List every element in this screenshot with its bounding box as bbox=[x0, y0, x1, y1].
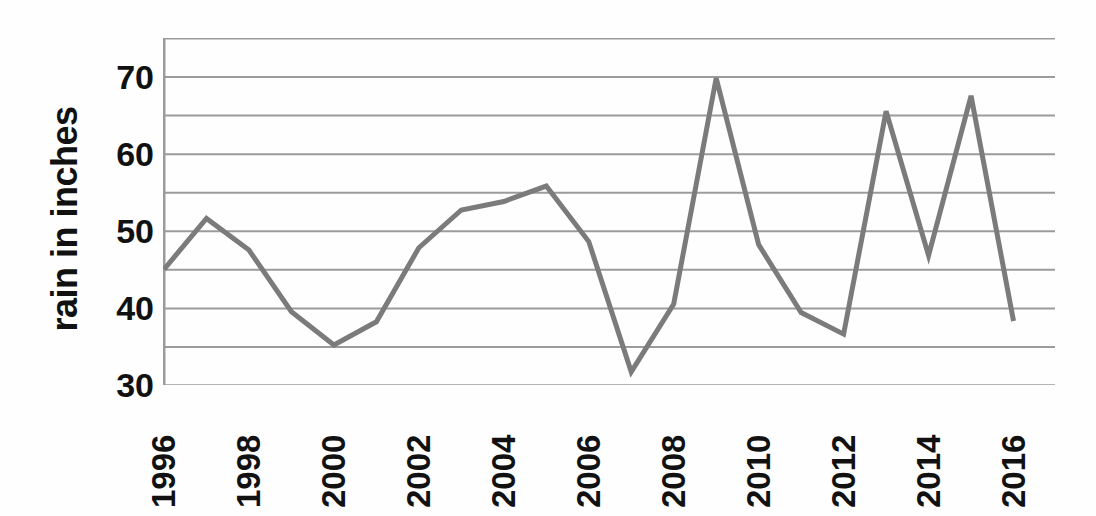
x-tick-label: 2000 bbox=[317, 388, 350, 508]
x-tick-label: 2002 bbox=[402, 388, 435, 508]
gridlines bbox=[163, 39, 1055, 386]
x-tick-label: 2006 bbox=[572, 388, 605, 508]
y-tick-label: 50 bbox=[82, 214, 154, 248]
axis-lines bbox=[163, 38, 1055, 385]
x-tick-label: 2008 bbox=[657, 388, 690, 508]
x-tick-label: 2012 bbox=[827, 388, 860, 508]
x-tick-label: 2016 bbox=[997, 388, 1030, 508]
y-axis-tick-labels: 3040506070 bbox=[82, 0, 154, 516]
y-tick-label: 30 bbox=[82, 368, 154, 402]
y-axis-title: rain in inches bbox=[44, 74, 86, 364]
y-tick-label: 70 bbox=[82, 60, 154, 94]
x-tick-label: 1998 bbox=[232, 388, 265, 508]
y-tick-label: 40 bbox=[82, 291, 154, 325]
x-axis-tick-labels: 1996199820002002200420062008201020122014… bbox=[163, 388, 1055, 516]
y-tick-label: 60 bbox=[82, 137, 154, 171]
plot-svg bbox=[163, 38, 1055, 385]
x-tick-label: 2014 bbox=[912, 388, 945, 508]
x-tick-label: 2004 bbox=[487, 388, 520, 508]
x-tick-label: 1996 bbox=[147, 388, 180, 508]
rainfall-line-chart: rain in inches 3040506070 19961998200020… bbox=[0, 0, 1096, 516]
data-series-line bbox=[164, 78, 1014, 372]
plot-area bbox=[163, 38, 1055, 385]
x-tick-label: 2010 bbox=[742, 388, 775, 508]
